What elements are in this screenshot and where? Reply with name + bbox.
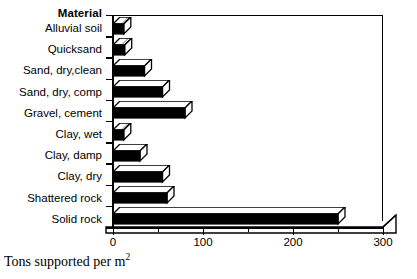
bar-4 <box>113 101 195 121</box>
y-tick-4 <box>106 100 112 101</box>
bar-2 <box>113 59 155 79</box>
bar-7 <box>113 165 173 185</box>
y-tick-2 <box>106 57 112 58</box>
x-tick-1 <box>203 228 204 235</box>
bar-3d-0 <box>113 17 134 37</box>
bar-3d-6 <box>113 144 150 164</box>
category-label-5: Clay, wet <box>0 127 108 142</box>
bar-0 <box>113 17 134 37</box>
category-label-6: Clay, damp <box>0 148 108 163</box>
bar-3d-7 <box>113 165 173 185</box>
x-tick-minor-0 <box>158 228 159 232</box>
bar-3d-3 <box>113 80 173 100</box>
y-tick-3 <box>106 79 112 80</box>
bar-3d-9 <box>113 207 348 227</box>
category-label-7: Clay, dry <box>0 169 108 184</box>
y-tick-1 <box>106 36 112 37</box>
x-tick-label-2: 200 <box>273 235 313 249</box>
category-label-3: Sand, dry, comp <box>0 85 108 100</box>
bar-3d-1 <box>113 38 135 58</box>
category-axis-header: Material <box>0 5 108 21</box>
chart-container: Material Alluvial soilQuicksandSand, dry… <box>0 0 417 279</box>
y-tick-6 <box>106 142 112 143</box>
category-label-1: Quicksand <box>0 42 108 57</box>
bar-1 <box>113 38 135 58</box>
bar-6 <box>113 144 150 164</box>
y-tick-end <box>106 227 112 228</box>
category-label-2: Sand, dry,clean <box>0 63 108 78</box>
category-label-0: Alluvial soil <box>0 21 108 36</box>
y-tick-5 <box>106 121 112 122</box>
x-tick-label-3: 300 <box>363 235 403 249</box>
x-tick-2 <box>293 228 294 235</box>
x-tick-minor-1 <box>248 228 249 232</box>
bar-5 <box>113 123 134 143</box>
x-tick-3 <box>383 228 384 235</box>
x-tick-0 <box>113 228 114 235</box>
bar-3d-5 <box>113 123 134 143</box>
x-tick-minor-2 <box>338 228 339 232</box>
y-tick-9 <box>106 206 112 207</box>
bar-8 <box>113 186 177 206</box>
y-tick-7 <box>106 163 112 164</box>
bar-3d-2 <box>113 59 155 79</box>
category-label-9: Solid rock <box>0 212 108 227</box>
bar-3 <box>113 80 173 100</box>
bar-3d-4 <box>113 101 195 121</box>
x-axis-title-superscript: 2 <box>126 252 131 262</box>
y-tick-0 <box>106 15 112 16</box>
bar-3d-8 <box>113 186 177 206</box>
y-tick-8 <box>106 185 112 186</box>
category-label-4: Gravel, cement <box>0 106 108 121</box>
bar-9 <box>113 207 348 227</box>
x-tick-label-1: 100 <box>183 235 223 249</box>
category-label-8: Shattered rock <box>0 191 108 206</box>
x-axis-title-text: Tons supported per m <box>4 254 126 269</box>
x-tick-label-0: 0 <box>93 235 133 249</box>
x-axis-title: Tons supported per m2 <box>4 252 130 270</box>
